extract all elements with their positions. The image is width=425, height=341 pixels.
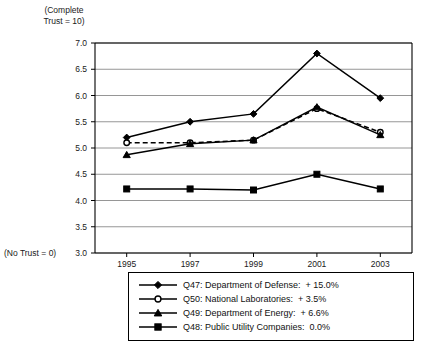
data-point-marker bbox=[187, 118, 194, 125]
x-tick-label: 2003 bbox=[371, 259, 390, 269]
y-tick-label: 6.5 bbox=[75, 64, 87, 74]
legend-marker-filled-square bbox=[137, 320, 179, 334]
data-point-marker bbox=[377, 186, 383, 192]
chart-figure: (Complete Trust = 10) (No Trust = 0) 3.0… bbox=[0, 0, 425, 341]
line-chart-plot: 3.03.54.04.55.05.56.06.57.0 199519971999… bbox=[0, 0, 425, 270]
data-point-marker bbox=[124, 140, 130, 146]
legend-label: Q50: National Laboratories: + 3.5% bbox=[179, 294, 326, 304]
legend-label: Q48: Public Utility Companies: 0.0% bbox=[179, 322, 330, 332]
legend-item: Q50: National Laboratories: + 3.5% bbox=[129, 292, 413, 306]
x-axis-ticks bbox=[127, 253, 381, 257]
data-point-marker bbox=[124, 186, 130, 192]
y-tick-label: 5.0 bbox=[75, 143, 87, 153]
x-axis-tick-labels: 19951997199920012003 bbox=[117, 259, 390, 269]
data-point-marker bbox=[251, 187, 257, 193]
y-tick-label: 3.5 bbox=[75, 222, 87, 232]
legend-marker-filled-diamond bbox=[137, 278, 179, 292]
x-tick-label: 1997 bbox=[181, 259, 200, 269]
legend-label: Q47: Department of Defense: + 15.0% bbox=[179, 280, 339, 290]
y-tick-label: 5.5 bbox=[75, 117, 87, 127]
chart-legend: Q47: Department of Defense: + 15.0%Q50: … bbox=[128, 272, 414, 341]
legend-item: Q49: Department of Energy: + 6.6% bbox=[129, 306, 413, 320]
data-point-marker bbox=[314, 171, 320, 177]
y-tick-label: 4.5 bbox=[75, 169, 87, 179]
y-axis-tick-labels: 3.03.54.04.55.05.56.06.57.0 bbox=[75, 38, 95, 258]
x-tick-label: 1999 bbox=[244, 259, 263, 269]
data-point-marker bbox=[154, 281, 161, 288]
grid-lines bbox=[95, 43, 412, 253]
data-point-marker bbox=[155, 296, 161, 302]
x-tick-label: 1995 bbox=[117, 259, 136, 269]
legend-label: Q49: Department of Energy: + 6.6% bbox=[179, 308, 329, 318]
y-tick-label: 4.0 bbox=[75, 196, 87, 206]
y-tick-label: 6.0 bbox=[75, 91, 87, 101]
x-tick-label: 2001 bbox=[307, 259, 326, 269]
y-tick-label: 7.0 bbox=[75, 38, 87, 48]
legend-marker-filled-triangle bbox=[137, 306, 179, 320]
data-point-marker bbox=[187, 186, 193, 192]
legend-marker-open-circle bbox=[137, 292, 179, 306]
y-tick-label: 3.0 bbox=[75, 248, 87, 258]
legend-item: Q48: Public Utility Companies: 0.0% bbox=[129, 320, 413, 334]
legend-item: Q47: Department of Defense: + 15.0% bbox=[129, 278, 413, 292]
data-point-marker bbox=[155, 324, 161, 330]
